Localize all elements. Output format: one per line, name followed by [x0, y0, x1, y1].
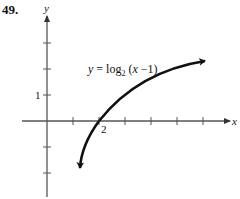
x-tick-label-2: 2: [101, 123, 107, 135]
y-axis-label: y: [43, 2, 49, 14]
y-axis: [43, 16, 51, 197]
log-curve: [80, 121, 99, 168]
x-axis-label: x: [231, 115, 237, 127]
y-tick-label-1: 1: [35, 89, 41, 101]
equation-label: y = log2 (x −1): [87, 62, 158, 78]
graph: y x 1 2 y = log2 (x −1): [0, 0, 240, 199]
x-axis: [22, 117, 230, 125]
